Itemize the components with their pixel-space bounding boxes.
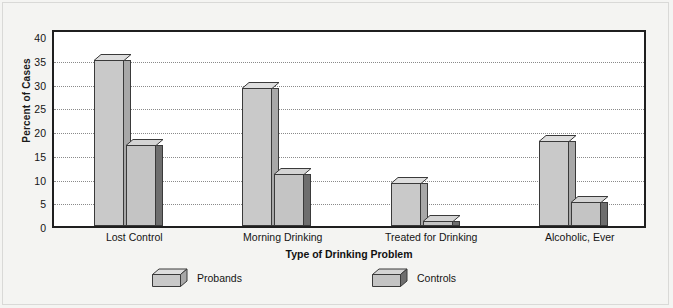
- y-tick-label: 30: [12, 80, 46, 91]
- bar-top-face: [274, 168, 313, 176]
- gridline: [54, 109, 644, 110]
- bar-top-face: [539, 135, 578, 143]
- bar-controls: [126, 139, 163, 226]
- y-tick-label: 20: [12, 128, 46, 139]
- bar-top-face: [94, 54, 133, 62]
- bar-controls: [423, 215, 460, 226]
- bar-front-face: [242, 88, 272, 226]
- legend-label: Probands: [197, 272, 242, 284]
- bar-side-face: [304, 174, 311, 226]
- chart-figure: Percent of Cases 0510152025303540 Lost C…: [0, 0, 673, 308]
- gridline: [54, 62, 644, 63]
- y-tick-label: 35: [12, 57, 46, 68]
- bar-top-face: [391, 177, 430, 185]
- y-tick-label: 15: [12, 152, 46, 163]
- x-tick-label: Treated for Drinking: [385, 231, 477, 243]
- bar-front-face: [391, 183, 421, 226]
- legend-swatch-icon: [372, 268, 410, 288]
- y-tick-label: 5: [12, 199, 46, 210]
- plot-inner: [54, 32, 644, 226]
- y-tick-label: 0: [12, 223, 46, 234]
- x-axis-category-labels: Lost ControlMorning DrinkingTreated for …: [52, 231, 646, 247]
- x-axis-title: Type of Drinking Problem: [52, 248, 646, 260]
- legend-item-controls[interactable]: Controls: [372, 268, 456, 288]
- chart-legend: ProbandsControls: [52, 268, 646, 298]
- bar-controls: [571, 196, 608, 226]
- gridline: [54, 86, 644, 87]
- bar-front-face: [94, 60, 124, 226]
- y-tick-label: 40: [12, 33, 46, 44]
- bar-side-face: [601, 202, 608, 226]
- legend-swatch-icon: [152, 268, 190, 288]
- bar-top-face: [571, 196, 610, 204]
- bar-front-face: [126, 145, 156, 226]
- bar-side-face: [156, 145, 163, 226]
- x-tick-label: Lost Control: [106, 231, 163, 243]
- bar-controls: [274, 168, 311, 226]
- bar-top-face: [126, 139, 165, 147]
- bar-top-face: [423, 215, 462, 223]
- legend-item-probands[interactable]: Probands: [152, 268, 242, 288]
- y-tick-label: 10: [12, 175, 46, 186]
- x-tick-label: Morning Drinking: [243, 231, 322, 243]
- y-tick-label: 25: [12, 104, 46, 115]
- plot-area: [52, 30, 646, 228]
- x-tick-label: Alcoholic, Ever: [545, 231, 614, 243]
- legend-label: Controls: [417, 272, 456, 284]
- bar-front-face: [274, 174, 304, 226]
- bar-top-face: [242, 82, 281, 90]
- bar-front-face: [571, 202, 601, 226]
- bar-front-face: [539, 141, 569, 227]
